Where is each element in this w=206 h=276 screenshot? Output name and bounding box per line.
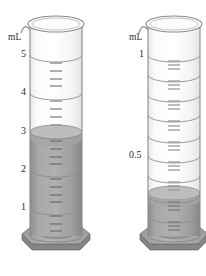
graduated-cylinders-figure: mL 5 4 3 2 1 [0,0,206,276]
right-cylinder-tick-label-1: 1 [139,49,144,59]
left-cylinder-tick-label-3: 3 [21,126,26,136]
left-graduated-cylinder: mL 5 4 3 2 1 [0,0,103,276]
left-cylinder-tick-label-1: 1 [21,202,26,212]
right-graduated-cylinder: mL 1 0.5 [103,0,206,276]
left-cylinder-tick-label-4: 4 [21,87,26,97]
right-cylinder-liquid [148,186,200,236]
right-cylinder-glass [139,16,202,242]
right-cylinder-tick-label-0-5: 0.5 [129,150,142,160]
left-cylinder-tick-label-5: 5 [21,49,26,59]
right-cylinder-minor-ticks [168,61,180,190]
left-cylinder-units-label: mL [8,33,21,43]
right-cylinder-units-label: mL [129,33,142,43]
left-cylinder-glass [21,16,84,242]
right-cylinder-drawing [103,0,206,276]
left-cylinder-tick-label-2: 2 [21,164,26,174]
